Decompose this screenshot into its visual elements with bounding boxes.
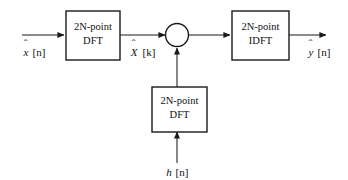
block-output-idft-line1: 2N-point — [242, 21, 280, 32]
signal-filter-input-index: [n] — [176, 166, 189, 178]
block-output-idft-line2: IDFT — [249, 35, 273, 46]
diagram-svg: 2N-point DFT 2N-point DFT 2N-point IDFT … — [0, 0, 348, 180]
signal-input-index: [n] — [33, 46, 46, 58]
block-output-idft[interactable]: 2N-point IDFT — [232, 11, 289, 60]
multiplier-node[interactable] — [166, 24, 189, 47]
block-filter-dft-line1: 2N-point — [161, 95, 199, 106]
block-input-dft-line2: DFT — [83, 35, 103, 46]
signal-output-base: y — [308, 46, 314, 58]
signal-spectrum-index: [k] — [143, 46, 156, 58]
signal-label-output: ˆ y [n] — [308, 37, 331, 59]
block-filter-dft[interactable]: 2N-point DFT — [152, 87, 207, 132]
block-filter-dft-line2: DFT — [170, 109, 190, 120]
signal-label-input: ˆ x [n] — [23, 37, 46, 59]
block-diagram-canvas: 2N-point DFT 2N-point DFT 2N-point IDFT … — [0, 0, 348, 180]
signal-spectrum-base: X — [130, 46, 139, 58]
multiplier-node-circle — [166, 24, 189, 47]
signal-label-filter-input: h [n] — [166, 166, 188, 178]
signal-label-spectrum: ˆ X [k] — [130, 37, 156, 59]
block-input-dft[interactable]: 2N-point DFT — [66, 11, 120, 60]
block-input-dft-line1: 2N-point — [74, 21, 112, 32]
signal-input-base: x — [23, 46, 29, 58]
signal-output-index: [n] — [318, 46, 331, 58]
signal-filter-input-base: h — [166, 166, 172, 178]
